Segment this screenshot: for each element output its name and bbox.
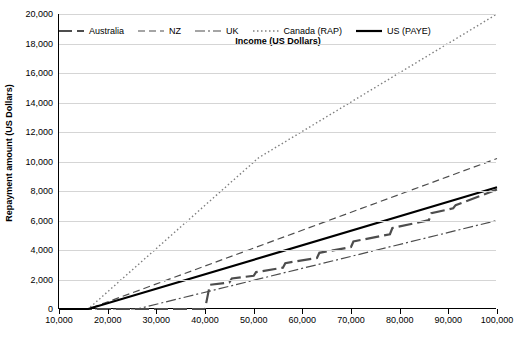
y-gridline — [59, 191, 496, 192]
series-line — [59, 159, 497, 309]
x-tick-label: 30,000 — [131, 315, 181, 325]
y-gridline — [59, 103, 496, 104]
x-tick-label: 20,000 — [83, 315, 133, 325]
y-gridline — [59, 280, 496, 281]
series-line — [59, 187, 497, 309]
x-tick — [205, 309, 206, 314]
x-tick-label: 80,000 — [375, 315, 425, 325]
x-tick — [108, 309, 109, 314]
x-tick-label: 100,000 — [472, 315, 518, 325]
y-gridline — [59, 14, 496, 15]
x-tick — [497, 309, 498, 314]
x-tick — [254, 309, 255, 314]
x-tick-label: 50,000 — [229, 315, 279, 325]
x-tick — [302, 309, 303, 314]
y-gridline — [59, 221, 496, 222]
x-tick-label: 60,000 — [277, 315, 327, 325]
x-tick — [156, 309, 157, 314]
y-tick-label: 20,000 — [1, 9, 53, 19]
x-tick — [400, 309, 401, 314]
x-tick-label: 70,000 — [326, 315, 376, 325]
y-tick-label: 0 — [1, 304, 53, 314]
x-tick-label: 10,000 — [34, 315, 84, 325]
y-axis-label: Repayment amount (US Dollars) — [4, 28, 14, 278]
y-gridline — [59, 44, 496, 45]
y-gridline — [59, 250, 496, 251]
x-axis-label: Income (US Dollars) — [59, 36, 497, 46]
x-tick — [351, 309, 352, 314]
plot-area: Income (US Dollars) 02,0004,0006,0008,00… — [58, 14, 496, 309]
x-tick-label: 90,000 — [423, 315, 473, 325]
y-gridline — [59, 162, 496, 163]
x-tick — [59, 309, 60, 314]
y-gridline — [59, 73, 496, 74]
x-tick-label: 40,000 — [180, 315, 230, 325]
x-tick — [448, 309, 449, 314]
y-gridline — [59, 132, 496, 133]
